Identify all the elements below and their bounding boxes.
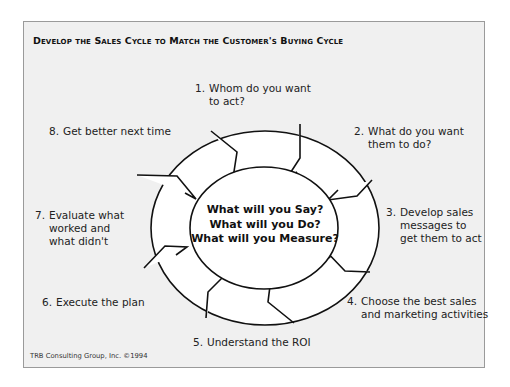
center-questions: What will you Say? What will you Do? Wha… xyxy=(165,203,365,247)
step-2-label: 2.What do you want them to do? xyxy=(354,125,464,151)
step-1-label: 1.Whom do you want to act? xyxy=(195,82,311,108)
step-3-label: 3.Develop sales messages to get them to … xyxy=(386,206,482,245)
step-6-label: 6.Execute the plan xyxy=(42,296,145,309)
step-4-label: 4.Choose the best sales and marketing ac… xyxy=(347,295,488,321)
cycle-ring-diagram xyxy=(0,0,510,387)
center-line-measure: What will you Measure? xyxy=(165,232,365,247)
step-8-label: 8.Get better next time xyxy=(49,125,171,138)
step-5-label: 5.Understand the ROI xyxy=(193,336,311,349)
step-7-label: 7.Evaluate what worked and what didn't xyxy=(35,209,124,248)
center-line-do: What will you Do? xyxy=(165,218,365,233)
copyright-footer: TRB Consulting Group, Inc. ©1994 xyxy=(30,352,147,360)
center-line-say: What will you Say? xyxy=(165,203,365,218)
